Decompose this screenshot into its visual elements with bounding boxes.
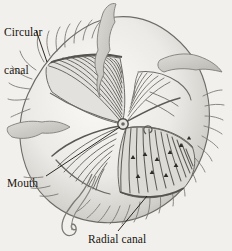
label-mouth: Mouth — [7, 177, 38, 190]
label-radial-canal: Radial canal — [88, 233, 146, 246]
jellyfish-figure: Circular canal Mouth Radial canal — [0, 0, 232, 251]
label-circular-canal: Circular canal — [4, 1, 42, 102]
label-circular-canal-line1: Circular — [4, 26, 42, 39]
label-circular-canal-line2: canal — [4, 64, 42, 77]
